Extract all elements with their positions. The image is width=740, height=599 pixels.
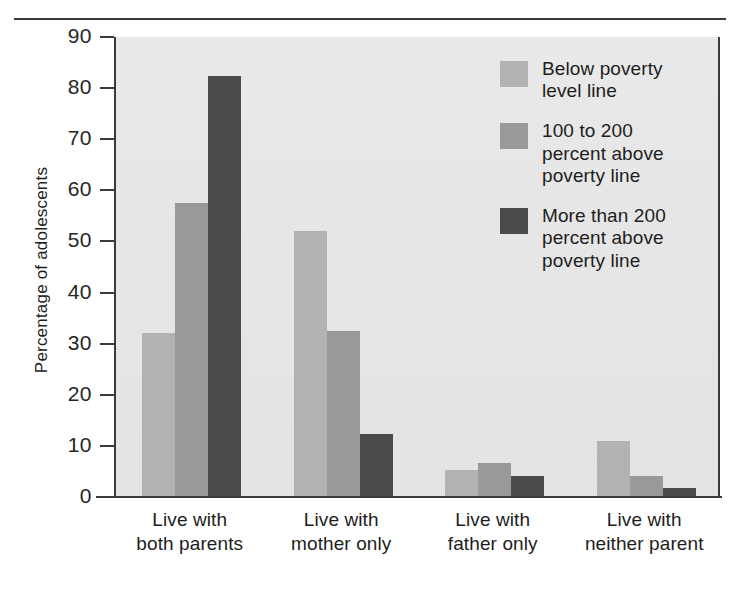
bar <box>294 231 327 497</box>
chart-legend: Below poverty level line100 to 200 perce… <box>500 58 730 290</box>
y-tick-mark <box>100 36 114 38</box>
y-tick-mark <box>100 189 114 191</box>
legend-item: More than 200 percent above poverty line <box>500 205 730 272</box>
y-tick-mark <box>100 394 114 396</box>
legend-item: 100 to 200 percent above poverty line <box>500 120 730 187</box>
y-axis-ticks: 9080706050403020100 <box>0 0 114 599</box>
bar <box>511 476 544 497</box>
y-tick-mark <box>100 138 114 140</box>
top-rule-divider <box>14 18 726 20</box>
chart-figure: Percentage of adolescents 90807060504030… <box>0 0 740 599</box>
x-axis-label: Live with father only <box>417 508 569 556</box>
x-axis-label: Live with neither parent <box>569 508 721 556</box>
y-tick-label: 90 <box>68 24 92 48</box>
x-axis-label: Live with both parents <box>114 508 266 556</box>
y-tick-label: 70 <box>68 126 92 150</box>
legend-swatch <box>500 123 528 149</box>
bar-group <box>294 37 393 497</box>
y-tick-label: 20 <box>68 382 92 406</box>
legend-swatch <box>500 61 528 87</box>
y-tick-label: 40 <box>68 280 92 304</box>
y-tick-label: 60 <box>68 177 92 201</box>
bar <box>597 441 630 497</box>
y-tick-mark <box>100 292 114 294</box>
y-tick-mark <box>100 240 114 242</box>
y-tick-label: 50 <box>68 228 92 252</box>
bar <box>445 470 478 497</box>
x-axis-labels: Live with both parentsLive with mother o… <box>114 508 720 578</box>
bar <box>630 476 663 497</box>
legend-swatch <box>500 208 528 234</box>
y-tick-mark <box>100 87 114 89</box>
bar <box>478 463 511 497</box>
bar <box>208 76 241 497</box>
y-tick-mark <box>100 343 114 345</box>
bar <box>360 434 393 497</box>
y-tick-label: 30 <box>68 331 92 355</box>
legend-label: 100 to 200 percent above poverty line <box>542 120 730 187</box>
legend-label: More than 200 percent above poverty line <box>542 205 730 272</box>
bar-group <box>142 37 241 497</box>
legend-label: Below poverty level line <box>542 58 730 102</box>
x-axis-label: Live with mother only <box>266 508 418 556</box>
legend-item: Below poverty level line <box>500 58 730 102</box>
y-tick-label: 80 <box>68 75 92 99</box>
bar <box>142 333 175 497</box>
y-tick-label: 0 <box>80 484 92 508</box>
y-tick-label: 10 <box>68 433 92 457</box>
x-axis-line <box>96 496 722 498</box>
y-tick-mark <box>100 445 114 447</box>
bar <box>327 331 360 497</box>
bar <box>175 203 208 497</box>
